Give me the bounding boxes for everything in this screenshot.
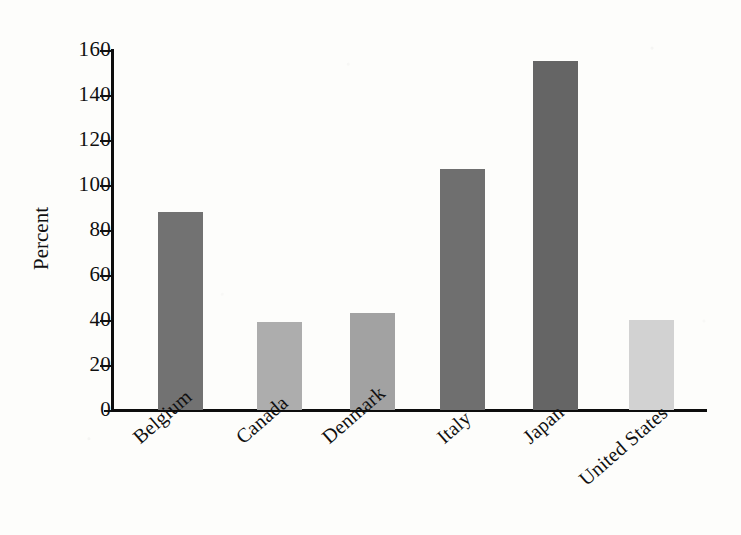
x-tick-label-united-states: United States <box>575 402 671 489</box>
x-tick-label-italy: Italy <box>433 407 475 447</box>
bar-belgium <box>158 212 203 410</box>
bar-italy <box>440 169 485 410</box>
bar-japan <box>533 61 578 410</box>
bars-layer <box>0 0 741 410</box>
bar-united-states <box>629 320 674 410</box>
chart-figure: Percent 160 140 120 100 80 60 40 20 0 <box>0 0 741 535</box>
